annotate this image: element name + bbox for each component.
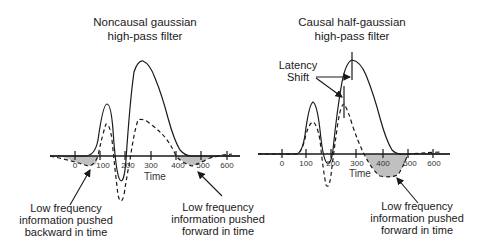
right-panel: Causal half-gaussian high-pass filter 0 … xyxy=(258,16,464,236)
left-tick-300: 300 xyxy=(144,161,158,170)
left-tick-500: 500 xyxy=(196,161,210,170)
right-note-forward-line1: Low frequency xyxy=(381,200,453,212)
right-tick-300: 300 xyxy=(350,159,364,168)
right-tick-0: 0 xyxy=(280,159,285,168)
right-note-forward-line3: forward in time xyxy=(381,224,453,236)
left-tick-200: 200 xyxy=(121,161,135,170)
left-title-line2: high-pass filter xyxy=(108,30,183,42)
latency-label-line2: Shift xyxy=(287,71,309,83)
left-arrow-backward xyxy=(70,170,90,205)
right-title-line2: high-pass filter xyxy=(315,30,390,42)
left-note-forward-line1: Low frequency xyxy=(182,201,254,213)
right-title-line1: Causal half-gaussian xyxy=(298,16,405,28)
left-x-label: Time xyxy=(144,171,166,182)
right-tick-400: 400 xyxy=(376,159,390,168)
left-note-backward-line1: Low frequency xyxy=(30,202,102,214)
left-tick-600: 600 xyxy=(220,161,234,170)
right-tick-100: 100 xyxy=(299,159,313,168)
left-note-backward-line2: information pushed xyxy=(19,214,113,226)
left-tick-0: 0 xyxy=(73,161,78,170)
left-note-backward-line3: backward in time xyxy=(25,226,108,238)
left-note-forward-line3: forward in time xyxy=(182,225,254,237)
right-x-label: Time xyxy=(349,168,371,179)
left-note-forward-line2: information pushed xyxy=(171,213,265,225)
left-arrow-forward xyxy=(198,172,222,196)
right-tick-600: 600 xyxy=(427,159,441,168)
filter-diagram: Noncausal gaussian high-pass filter 0 10… xyxy=(0,0,479,249)
left-title-line1: Noncausal gaussian xyxy=(93,16,197,28)
right-note-forward-line2: information pushed xyxy=(370,212,464,224)
left-panel: Noncausal gaussian high-pass filter 0 10… xyxy=(19,16,265,238)
latency-arrow-filtered xyxy=(316,78,342,97)
left-tick-100: 100 xyxy=(96,161,110,170)
latency-label-line1: Latency xyxy=(279,59,318,71)
